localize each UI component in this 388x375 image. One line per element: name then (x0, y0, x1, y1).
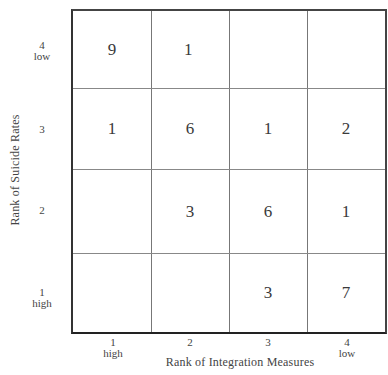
cell-r4-c4 (307, 11, 385, 88)
cell-r1-c2 (151, 254, 229, 332)
x-tick-rank: 3 (238, 337, 298, 348)
cell-r1-c1 (73, 254, 151, 332)
y-axis-label: Rank of Suicide Rates (8, 114, 23, 225)
y-tick-rank: 2 (22, 205, 62, 216)
cell-r2-c4: 1 (307, 170, 385, 253)
x-tick-3: 3 (238, 337, 298, 348)
cell-r4-c2: 1 (151, 11, 229, 88)
cell-r4-c1: 9 (73, 11, 151, 88)
cell-r1-c4: 7 (307, 254, 385, 332)
y-tick-sub: high (22, 298, 62, 309)
x-tick-rank: 2 (160, 337, 220, 348)
y-tick-rank: 3 (22, 124, 62, 135)
x-tick-2: 2 (160, 337, 220, 348)
x-tick-1: 1 high (83, 337, 143, 359)
y-tick-2: 2 (22, 205, 62, 216)
cell-r3-c1: 1 (73, 89, 151, 169)
cell-r2-c2: 3 (151, 170, 229, 253)
y-tick-sub: low (22, 51, 62, 62)
cell-r3-c3: 1 (229, 89, 307, 169)
cell-r2-c3: 6 (229, 170, 307, 253)
y-tick-1: 1 high (22, 287, 62, 309)
cell-r3-c4: 2 (307, 89, 385, 169)
x-axis-label: Rank of Integration Measures (150, 355, 330, 370)
cell-r1-c3: 3 (229, 254, 307, 332)
cell-r2-c1 (73, 170, 151, 253)
y-tick-4: 4 low (22, 40, 62, 62)
cell-r3-c2: 6 (151, 89, 229, 169)
y-tick-3: 3 (22, 124, 62, 135)
cell-r4-c3 (229, 11, 307, 88)
contingency-grid: 9 1 1 6 1 2 3 6 1 3 7 (71, 9, 387, 334)
x-tick-sub: high (83, 348, 143, 359)
